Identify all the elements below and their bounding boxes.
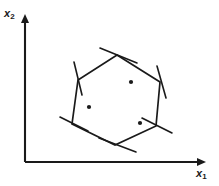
- x-axis-label: x1: [196, 168, 207, 179]
- constraint-line-bottom: [99, 138, 136, 152]
- feasible-region-hexagon: [72, 55, 160, 145]
- hexagon-outline: [72, 55, 160, 145]
- figure-container: x2 x1: [0, 0, 219, 186]
- constraint-line-top: [100, 48, 137, 63]
- constraint-lines-group: [60, 48, 172, 152]
- data-point: [87, 105, 91, 109]
- x-axis-label-subscript: 1: [202, 172, 206, 181]
- interior-points-group: [87, 80, 142, 125]
- y-axis-label-subscript: 2: [10, 12, 14, 21]
- y-axis-arrowhead: [21, 14, 29, 23]
- constraint-line-lower-left: [60, 117, 88, 131]
- data-point: [138, 121, 142, 125]
- data-point: [129, 80, 133, 84]
- y-axis-label: x2: [4, 8, 15, 19]
- diagram-canvas: [0, 0, 219, 186]
- x-axis-arrowhead: [197, 158, 206, 166]
